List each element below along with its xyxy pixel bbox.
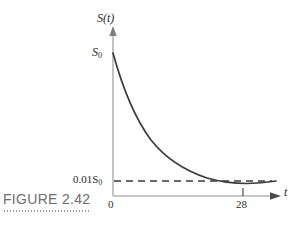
origin-label: 0	[108, 199, 114, 210]
y-axis	[109, 26, 116, 196]
threshold-value-label: 0.01S0	[73, 174, 102, 186]
figure-caption-text: FIGURE 2.42	[3, 192, 95, 207]
x-axis	[113, 192, 281, 200]
y-axis-label: S(t)	[97, 12, 114, 24]
figure-caption-block: FIGURE 2.42	[3, 192, 95, 212]
threshold-value-symbol: 0.01S	[73, 173, 98, 185]
figure-caption-rule	[3, 210, 91, 212]
threshold-value-subscript: 0	[98, 178, 102, 187]
x-axis-label: t	[284, 186, 287, 198]
initial-value-label: S0	[92, 46, 102, 60]
decay-curve	[113, 53, 276, 183]
initial-value-subscript: 0	[98, 51, 102, 60]
y-axis-arrowhead	[109, 26, 116, 36]
x-axis-arrowhead	[270, 192, 281, 200]
figure-2-42: S(t) S0 0.01S0 0 28 t FIGURE 2.42	[0, 0, 296, 225]
x-tick-label-28: 28	[236, 199, 247, 210]
